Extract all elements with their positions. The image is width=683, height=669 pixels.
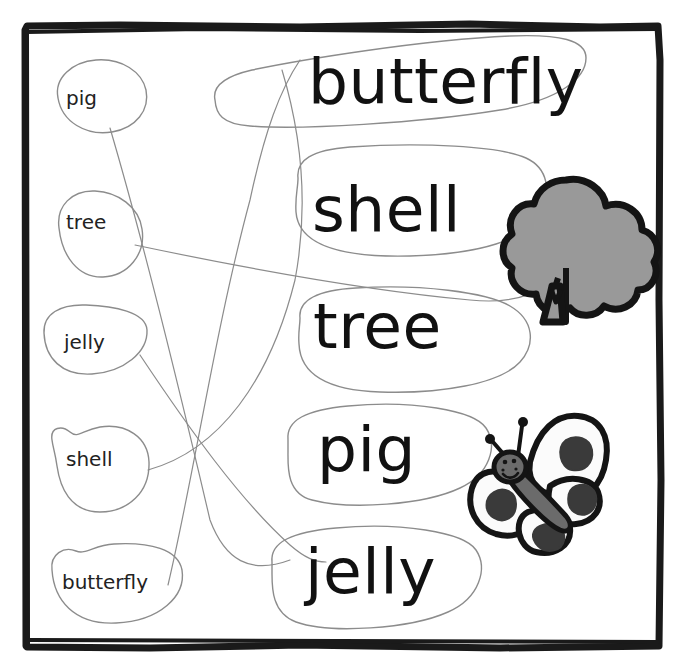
big-word-pig[interactable]: pig [317,418,416,481]
small-word-tree[interactable]: tree [66,212,106,232]
big-word-shell[interactable]: shell [312,178,461,241]
big-word-tree[interactable]: tree [313,295,442,358]
small-word-jelly[interactable]: jelly [64,332,105,352]
small-word-pig[interactable]: pig [66,88,97,108]
small-word-butterfly[interactable]: butterfly [62,572,148,592]
worksheet-page: pig tree jelly shell butterfly butterfly… [0,0,683,669]
big-word-jelly[interactable]: jelly [305,540,436,603]
word-text-layer: pig tree jelly shell butterfly butterfly… [0,0,683,669]
small-word-shell[interactable]: shell [66,449,113,469]
big-word-butterfly[interactable]: butterfly [308,50,583,113]
